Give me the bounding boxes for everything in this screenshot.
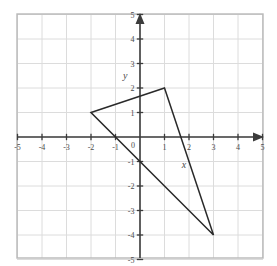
x-axis-tick-label: 2 [187,143,191,152]
x-axis-tick-label: 4 [236,143,240,152]
x-axis-tick-label: 5 [261,143,265,152]
y-axis-tick-label: 4 [131,35,135,44]
axis-name-label-x: x [181,159,187,170]
origin-tick-label: 0 [131,141,135,150]
x-axis-tick-label: 1 [163,143,167,152]
x-axis-tick-label: -4 [39,143,46,152]
x-axis-tick-label: 3 [212,143,216,152]
x-axis-tick-label: -1 [112,143,119,152]
coordinate-plane-figure: -5-4-3-2-112345-5-4-3-2-1123450 yx [0,0,277,266]
y-axis-tick-label: -5 [128,256,135,265]
plot-svg: -5-4-3-2-112345-5-4-3-2-1123450 yx [0,0,277,266]
y-axis-tick-label: 2 [131,84,135,93]
y-axis-tick-label: -2 [128,182,135,191]
y-axis-tick-label: -3 [128,207,135,216]
x-axis-tick-label: -2 [88,143,95,152]
y-axis-tick-label: 3 [131,60,135,69]
y-axis-tick-label: -4 [128,231,135,240]
y-axis-tick-label: -1 [128,158,135,167]
axes-group [17,13,264,258]
x-axis-tick-label: -3 [63,143,70,152]
y-axis-tick-label: 1 [131,109,135,118]
y-axis-tick-label: 5 [131,11,135,20]
x-axis-tick-label: -5 [14,143,21,152]
axis-name-label-y: y [122,70,128,81]
